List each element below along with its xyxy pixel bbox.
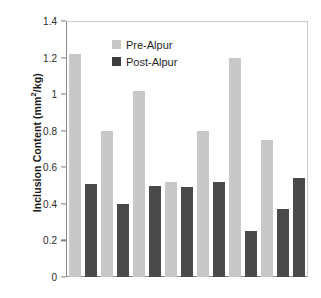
legend-label-post: Post-Alpur <box>126 56 177 68</box>
bar-pre-alpur-5 <box>197 131 210 277</box>
legend-swatch-post <box>112 57 121 66</box>
y-tick-label: 0.2 <box>43 235 57 246</box>
bar-pre-alpur-7 <box>261 140 274 277</box>
chart-legend: Pre-AlpurPost-Alpur <box>112 36 177 70</box>
legend-label-pre: Pre-Alpur <box>126 39 172 51</box>
y-axis-label-prefix: Inclusion Content (mm <box>31 97 43 213</box>
legend-swatch-pre <box>112 40 121 49</box>
bar-pre-alpur-2 <box>101 131 114 277</box>
bar-pre-alpur-6 <box>229 58 242 277</box>
bar-post-alpur-8 <box>293 178 306 277</box>
bar-post-alpur-3 <box>149 186 162 277</box>
bar-post-alpur-5 <box>213 182 226 277</box>
y-tick-label: 0.6 <box>43 162 57 173</box>
y-tick-label: 1 <box>51 89 57 100</box>
y-tick-label: 0 <box>51 272 57 283</box>
inclusion-content-bar-chart: Inclusion Content (mm2/kg) 00.20.40.60.8… <box>0 0 321 298</box>
bar-post-alpur-7 <box>277 209 290 277</box>
bar-pre-alpur-1 <box>69 54 82 277</box>
bar-pre-alpur-3 <box>133 91 146 278</box>
bar-post-alpur-6 <box>245 231 258 277</box>
legend-item-pre: Pre-Alpur <box>112 36 177 53</box>
legend-item-post: Post-Alpur <box>112 53 177 70</box>
bar-post-alpur-1 <box>85 184 98 277</box>
y-tick-label: 0.8 <box>43 125 57 136</box>
y-axis-label-suffix: /kg) <box>31 73 43 92</box>
bar-post-alpur-4 <box>181 187 194 277</box>
y-axis-label-superscript: 2 <box>29 92 38 96</box>
y-tick-label: 1.4 <box>43 16 57 27</box>
bar-pre-alpur-4 <box>165 182 178 277</box>
y-tick-label: 0.4 <box>43 198 57 209</box>
y-tick-label: 1.2 <box>43 52 57 63</box>
y-axis-label: Inclusion Content (mm2/kg) <box>29 23 43 263</box>
bar-post-alpur-2 <box>117 204 130 277</box>
bars-layer <box>67 21 307 277</box>
